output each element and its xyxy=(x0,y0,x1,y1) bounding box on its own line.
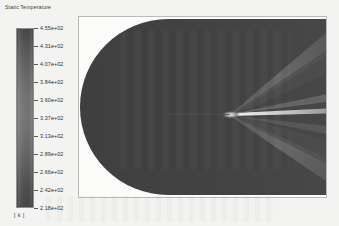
plot-panel xyxy=(78,16,327,198)
colorbar-tick-label: 2.18e+02 xyxy=(40,205,63,211)
colorbar-unit-label: [ k ] xyxy=(14,212,25,218)
colorbar-tick-label: 3.84e+02 xyxy=(40,79,63,85)
colorbar-tick-mark xyxy=(34,136,38,137)
colorbar-legend: Static Temperature 4.55e+024.31e+024.07e… xyxy=(0,0,78,226)
colorbar-gradient xyxy=(16,28,34,208)
colorbar-tick-mark xyxy=(34,118,38,119)
colorbar-tick-mark xyxy=(34,172,38,173)
colorbar-tick-label: 4.31e+02 xyxy=(40,43,63,49)
page-title: Static Temperature xyxy=(5,4,51,10)
colorbar-tick-label: 3.37e+02 xyxy=(40,115,63,121)
colorbar-tick-label: 3.13e+02 xyxy=(40,133,63,139)
compression-artifact-bottom xyxy=(46,196,276,222)
colorbar-tick-label: 3.60e+02 xyxy=(40,97,63,103)
colorbar-tick-mark xyxy=(34,28,38,29)
colorbar-tick-label: 2.42e+02 xyxy=(40,187,63,193)
colorbar-tick-mark xyxy=(34,190,38,191)
contour-svg xyxy=(79,17,326,197)
colorbar-sheen xyxy=(18,30,32,206)
symmetry-axis xyxy=(168,114,230,115)
colorbar-tick-label: 2.66e+02 xyxy=(40,169,63,175)
colorbar-tick-label: 4.07e+02 xyxy=(40,61,63,67)
colorbar-tick-mark xyxy=(34,64,38,65)
colorbar-tick-label: 4.55e+02 xyxy=(40,25,63,31)
temperature-contour-field xyxy=(79,17,326,197)
colorbar-tick-mark xyxy=(34,100,38,101)
colorbar xyxy=(16,28,34,208)
colorbar-tick-mark xyxy=(34,154,38,155)
colorbar-tick-mark xyxy=(34,82,38,83)
colorbar-tick-label: 2.89e+02 xyxy=(40,151,63,157)
freestream-region xyxy=(80,19,326,195)
flow-domain xyxy=(80,19,326,195)
colorbar-tick-mark xyxy=(34,208,38,209)
visualization-root: Static Temperature 4.55e+024.31e+024.07e… xyxy=(0,0,339,226)
colorbar-tick-mark xyxy=(34,46,38,47)
